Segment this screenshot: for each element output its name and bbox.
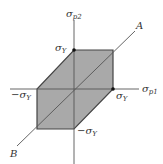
- horizontal-axis-label: σp1: [142, 83, 158, 96]
- yield-surface-diagram: σp2 σp1 A B σY σY −σY −σY: [0, 0, 163, 164]
- vertical-axis-label: σp2: [66, 8, 82, 21]
- right-yield-point: [111, 87, 115, 91]
- bottom-neg-sigma-y-label: −σY: [77, 125, 98, 138]
- diagonal-label-b: B: [9, 148, 17, 159]
- right-sigma-y-label: σY: [116, 90, 129, 103]
- diagonal-label-a: A: [135, 20, 143, 31]
- top-yield-point: [72, 48, 76, 52]
- top-sigma-y-label: σY: [55, 42, 68, 55]
- diagonal-line-ab: [17, 31, 135, 146]
- left-neg-sigma-y-label: −σY: [11, 89, 32, 102]
